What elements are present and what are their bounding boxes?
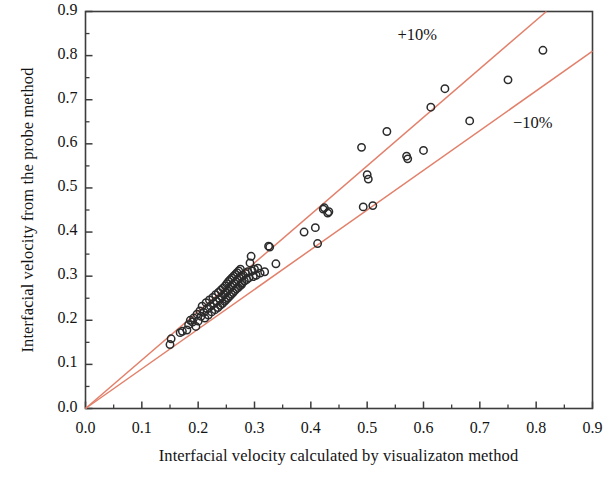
x-axis-tick-label: 0.6 bbox=[402, 419, 446, 437]
x-axis-tick-label: 0.4 bbox=[289, 419, 333, 437]
annotation-label: −10% bbox=[513, 113, 553, 133]
data-point bbox=[272, 260, 279, 267]
data-point bbox=[427, 104, 434, 111]
y-axis-tick-label: 0.6 bbox=[32, 133, 78, 151]
y-axis-tick-label: 0.3 bbox=[32, 265, 78, 283]
data-point bbox=[358, 144, 365, 151]
x-axis-tick-label: 0.1 bbox=[120, 419, 164, 437]
x-axis-tick-label: 0.8 bbox=[514, 419, 558, 437]
x-axis-tick-label: 0.5 bbox=[345, 419, 389, 437]
y-axis-tick-label: 0.9 bbox=[32, 1, 78, 19]
y-axis-tick-label: 0.4 bbox=[32, 221, 78, 239]
data-points bbox=[166, 47, 546, 349]
x-axis-tick-label: 0.9 bbox=[571, 419, 613, 437]
data-point bbox=[261, 268, 268, 275]
reference-line bbox=[86, 12, 547, 409]
data-point bbox=[420, 147, 427, 154]
scatter-chart-figure: Interfacial velocity from the probe meth… bbox=[0, 0, 613, 477]
x-axis-tick-label: 0.2 bbox=[176, 419, 220, 437]
data-point bbox=[383, 128, 390, 135]
data-point bbox=[300, 228, 307, 235]
data-point bbox=[466, 117, 473, 124]
y-axis-tick-label: 0.7 bbox=[32, 89, 78, 107]
data-point bbox=[365, 175, 372, 182]
x-axis-tick-label: 0.0 bbox=[64, 419, 108, 437]
reference-lines bbox=[86, 12, 593, 409]
y-axis-tick-label: 0.1 bbox=[32, 353, 78, 371]
y-axis-tick-label: 0.8 bbox=[32, 45, 78, 63]
y-axis-tick-label: 0.2 bbox=[32, 309, 78, 327]
data-point bbox=[312, 224, 319, 231]
y-axis-tick-label: 0.5 bbox=[32, 177, 78, 195]
data-point bbox=[360, 203, 367, 210]
y-axis-tick-label: 0.0 bbox=[32, 398, 78, 416]
x-axis-tick-label: 0.3 bbox=[233, 419, 277, 437]
plot-area bbox=[0, 0, 613, 477]
data-point bbox=[504, 76, 511, 83]
annotation-label: +10% bbox=[398, 25, 438, 45]
data-point bbox=[539, 47, 546, 54]
x-axis-tick-label: 0.7 bbox=[458, 419, 502, 437]
data-point bbox=[441, 85, 448, 92]
reference-line bbox=[86, 51, 593, 408]
